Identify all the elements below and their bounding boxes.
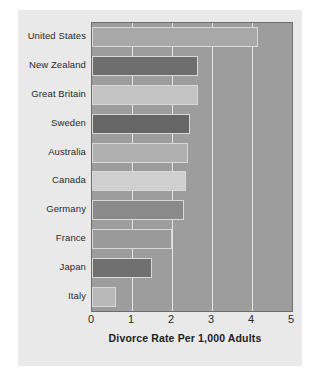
category-label: Sweden (51, 117, 86, 128)
bar (92, 27, 258, 47)
bar-row (92, 85, 292, 105)
category-label: France (56, 232, 86, 243)
x-tick-label: 2 (161, 313, 181, 325)
x-tick-label: 1 (121, 313, 141, 325)
category-label: United States (28, 30, 86, 41)
bar-row (92, 27, 292, 47)
bar-row (92, 200, 292, 220)
category-label: Japan (60, 261, 86, 272)
bar (92, 200, 184, 220)
x-tick-label: 0 (81, 313, 101, 325)
x-tick-label: 4 (241, 313, 261, 325)
bar-row (92, 56, 292, 76)
category-axis-labels: United StatesNew ZealandGreat BritainSwe… (0, 22, 86, 310)
bar (92, 171, 186, 191)
category-label: Great Britain (31, 88, 86, 99)
bar (92, 258, 152, 278)
bar (92, 56, 198, 76)
bar (92, 143, 188, 163)
category-label: Germany (46, 203, 86, 214)
chart-figure: United StatesNew ZealandGreat BritainSwe… (0, 0, 317, 381)
bar (92, 85, 198, 105)
x-axis-tick-labels: 012345 (91, 313, 293, 329)
x-tick-label: 3 (201, 313, 221, 325)
bar-row (92, 229, 292, 249)
bar-row (92, 258, 292, 278)
category-label: Australia (48, 146, 86, 157)
bar (92, 287, 116, 307)
bar (92, 229, 172, 249)
bar-row (92, 287, 292, 307)
x-tick-label: 5 (281, 313, 301, 325)
plot-area (91, 22, 293, 312)
bar-row (92, 143, 292, 163)
bar-row (92, 114, 292, 134)
category-label: Canada (52, 174, 86, 185)
category-label: Italy (68, 290, 86, 301)
bar (92, 114, 190, 134)
bar-row (92, 171, 292, 191)
x-axis-title: Divorce Rate Per 1,000 Adults (60, 332, 310, 344)
category-label: New Zealand (29, 59, 86, 70)
